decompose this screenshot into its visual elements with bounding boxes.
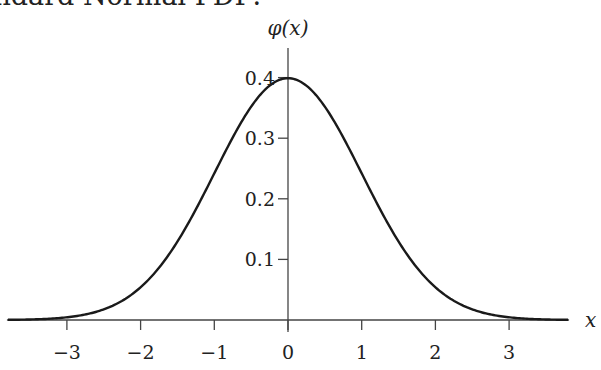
x-axis-label: x [585, 308, 596, 332]
y-axis-label: φ(x) [268, 16, 309, 40]
x-tick-label: 0 [282, 341, 294, 363]
x-tick-label: −3 [53, 341, 81, 363]
x-tick-label: 1 [356, 341, 368, 363]
labels: −3−2−101230.10.20.30.4xφ(x) [53, 16, 596, 363]
y-tick-label: 0.2 [245, 188, 275, 210]
y-tick-label: 0.4 [245, 67, 275, 89]
y-tick-label: 0.1 [245, 248, 275, 270]
x-tick-label: −2 [127, 341, 155, 363]
y-tick-label: 0.3 [245, 127, 275, 149]
x-tick-label: 3 [503, 341, 515, 363]
chart: −3−2−101230.10.20.30.4xφ(x) [0, 0, 601, 370]
axes [7, 48, 569, 332]
x-tick-label: −1 [200, 341, 228, 363]
x-tick-label: 2 [429, 341, 441, 363]
